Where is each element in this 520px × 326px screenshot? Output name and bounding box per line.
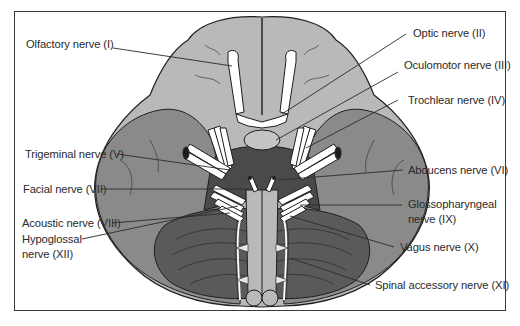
label-glossopharyngeal-line1: Glossopharyngeal (408, 198, 497, 211)
label-optic-nerve: Optic nerve (II) (413, 27, 485, 40)
label-glossopharyngeal-line2: nerve (IX) (408, 213, 456, 226)
pons (244, 130, 280, 150)
label-hypoglossal-line2: nerve (XII) (22, 248, 73, 261)
label-trigeminal-nerve: Trigeminal nerve (V) (25, 148, 124, 161)
label-vagus-nerve: Vagus nerve (X) (400, 241, 479, 254)
label-acoustic-nerve: Acoustic nerve (VIII) (22, 217, 121, 230)
label-abducens-nerve: Abducens nerve (VI) (408, 164, 508, 177)
label-trochlear-nerve: Trochlear nerve (IV) (408, 94, 505, 107)
label-hypoglossal-line1: Hypoglossal (22, 233, 82, 246)
label-oculomotor-nerve: Oculomotor nerve (III) (404, 59, 511, 72)
label-facial-nerve: Facial nerve (VII) (23, 183, 106, 196)
label-olfactory-nerve: Olfactory nerve (I) (26, 38, 114, 51)
label-spinal-accessory-nerve: Spinal accessory nerve (XI) (375, 279, 509, 292)
